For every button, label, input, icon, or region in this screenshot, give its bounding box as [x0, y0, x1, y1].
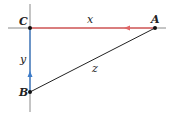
point-c — [28, 26, 32, 30]
side-z — [30, 28, 155, 92]
point-a — [153, 26, 157, 30]
side-x-arrow-icon — [124, 26, 130, 31]
label-b: B — [18, 86, 28, 99]
point-b — [28, 90, 32, 94]
side-y-arrow-icon — [28, 71, 33, 77]
label-x: x — [87, 13, 94, 26]
label-y: y — [19, 53, 27, 66]
label-z: z — [91, 62, 98, 75]
label-c: C — [19, 15, 28, 28]
triangle-diagram: C A B x y z — [0, 0, 173, 127]
label-a: A — [150, 13, 160, 26]
